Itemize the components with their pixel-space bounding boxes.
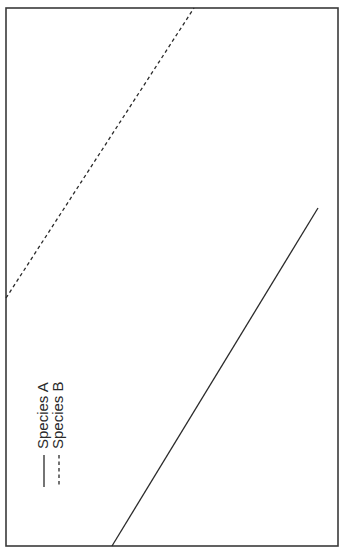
plot-frame — [6, 8, 338, 546]
series-species-a-line — [112, 208, 318, 546]
legend-label-species-b: Species B — [49, 381, 66, 449]
legend: Species A Species B — [34, 381, 66, 487]
series-species-b-line — [6, 8, 194, 298]
line-chart: Species A Species B — [0, 0, 347, 558]
